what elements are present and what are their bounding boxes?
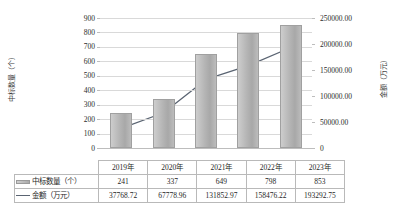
left-tick-label: 400 <box>84 87 95 95</box>
line-swatch-icon <box>16 195 30 196</box>
bar-2023年 <box>280 25 302 148</box>
bar-2022年 <box>237 33 259 148</box>
left-axis-title: 中标数量（个） <box>6 29 16 125</box>
table-column-header: 2022年 <box>246 161 295 175</box>
chart-figure: 中标数量（个） 金额（万元） 9008007006005004003002001… <box>0 0 405 218</box>
table-cell: 193292.75 <box>295 189 344 203</box>
table-row: 金额（万元）37768.7267778.96131852.97158476.22… <box>15 189 345 203</box>
left-tick-mark <box>97 134 100 135</box>
bar-2020年 <box>153 99 175 148</box>
table-column-header: 2019年 <box>99 161 148 175</box>
left-tick-label: 800 <box>84 29 95 37</box>
right-tick-mark <box>312 44 315 45</box>
table-cell: 37768.72 <box>99 189 148 203</box>
table-column-header: 2023年 <box>295 161 344 175</box>
left-axis-ticks: 9008007006005004003002001000 <box>72 18 98 148</box>
gridline <box>100 18 312 19</box>
table-cell: 337 <box>148 175 197 189</box>
bar-2019年 <box>110 113 132 148</box>
left-tick-label: 300 <box>84 101 95 109</box>
right-axis-ticks: 250000.00200000.00150000.00100000.005000… <box>316 18 378 148</box>
table-cell: 67778.96 <box>148 189 197 203</box>
left-tick-mark <box>97 90 100 91</box>
plot-area <box>100 18 312 148</box>
left-tick-mark <box>97 119 100 120</box>
left-tick-mark <box>97 76 100 77</box>
right-tick-label: 50000.00 <box>320 119 348 127</box>
table-cell: 241 <box>99 175 148 189</box>
left-tick-label: 500 <box>84 72 95 80</box>
left-tick-mark <box>97 105 100 106</box>
legend-label: 中标数量（个） <box>32 177 81 186</box>
bar-2021年 <box>195 54 217 148</box>
legend-entry[interactable]: 金额（万元） <box>15 189 99 203</box>
right-axis-title: 金额（万元） <box>378 29 388 125</box>
left-tick-label: 100 <box>84 130 95 138</box>
table-cell: 131852.97 <box>197 189 246 203</box>
right-tick-label: 250000.00 <box>320 15 352 23</box>
table-cell: 798 <box>246 175 295 189</box>
left-tick-mark <box>97 47 100 48</box>
table-column-header: 2021年 <box>197 161 246 175</box>
left-tick-label: 600 <box>84 58 95 66</box>
legend-entry[interactable]: 中标数量（个） <box>15 175 99 189</box>
bar-swatch-icon <box>16 180 30 184</box>
right-tick-mark <box>312 18 315 19</box>
chart-data-table: 2019年2020年2021年2022年2023年中标数量（个）24133764… <box>14 160 344 203</box>
right-tick-mark <box>312 148 315 149</box>
data-table: 2019年2020年2021年2022年2023年中标数量（个）24133764… <box>14 160 345 203</box>
table-cell: 158476.22 <box>246 189 295 203</box>
left-tick-mark <box>97 32 100 33</box>
right-tick-mark <box>312 96 315 97</box>
right-tick-mark <box>312 122 315 123</box>
right-tick-label: 0 <box>320 145 324 153</box>
table-cell: 853 <box>295 175 344 189</box>
left-tick-mark <box>97 148 100 149</box>
table-cell: 649 <box>197 175 246 189</box>
table-column-header: 2020年 <box>148 161 197 175</box>
left-tick-label: 0 <box>91 145 95 153</box>
table-row: 中标数量（个）241337649798853 <box>15 175 345 189</box>
left-tick-label: 700 <box>84 43 95 51</box>
right-tick-label: 150000.00 <box>320 67 352 75</box>
left-tick-mark <box>97 18 100 19</box>
chart-plot-region: 中标数量（个） 金额（万元） 9008007006005004003002001… <box>0 0 405 162</box>
right-tick-label: 200000.00 <box>320 41 352 49</box>
left-tick-mark <box>97 61 100 62</box>
legend-label: 金额（万元） <box>32 191 74 200</box>
right-tick-label: 100000.00 <box>320 93 352 101</box>
table-header-row: 2019年2020年2021年2022年2023年 <box>15 161 345 175</box>
left-tick-label: 200 <box>84 116 95 124</box>
right-tick-mark <box>312 70 315 71</box>
gridline <box>100 148 312 149</box>
left-tick-label: 900 <box>84 15 95 23</box>
table-corner-cell <box>15 161 99 175</box>
